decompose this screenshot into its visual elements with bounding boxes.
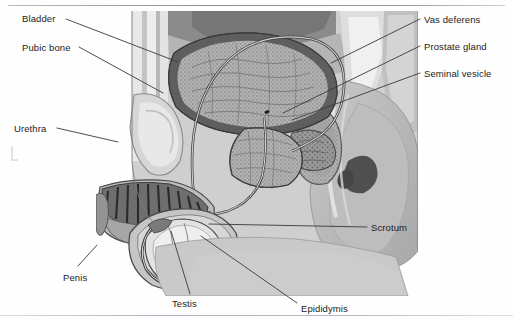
label-urethra: Urethra <box>14 123 46 134</box>
label-pubic-bone: Pubic bone <box>22 42 71 53</box>
cropped-title <box>150 0 370 2</box>
label-prostate-gland: Prostate gland <box>424 41 487 52</box>
label-bladder: Bladder <box>22 13 55 24</box>
left-watermark <box>11 146 18 161</box>
anatomical-illustration <box>96 11 418 296</box>
label-testis: Testis <box>172 298 197 309</box>
bottom-divider <box>0 315 513 316</box>
label-seminal-vesicle: Seminal vesicle <box>424 68 492 79</box>
top-divider <box>8 5 505 6</box>
figure-page: Bladder Pubic bone Urethra Penis Vas def… <box>0 0 513 323</box>
label-penis: Penis <box>63 272 87 283</box>
label-epididymis: Epididymis <box>301 303 348 314</box>
label-scrotum: Scrotum <box>371 222 407 233</box>
penis-leader <box>78 245 97 266</box>
label-vas-deferens: Vas deferens <box>424 14 480 25</box>
